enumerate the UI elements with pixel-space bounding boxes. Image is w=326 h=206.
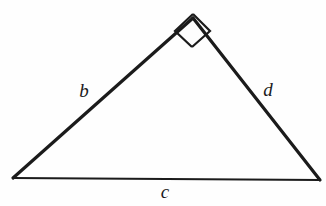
side-label-d: d: [263, 80, 273, 99]
triangle-side-b: [13, 18, 193, 178]
side-label-b: b: [79, 81, 89, 100]
triangle-diagram-canvas: b d c: [0, 0, 326, 206]
side-label-c: c: [161, 182, 169, 201]
triangle-side-d: [193, 18, 320, 180]
triangle-figure: [0, 0, 326, 206]
